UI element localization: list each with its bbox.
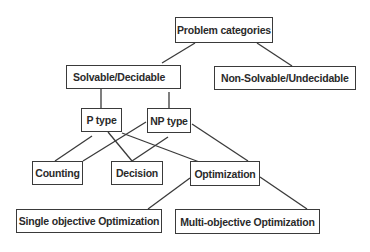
edge-p-optimization (122, 133, 202, 163)
node-counting: Counting (32, 161, 83, 185)
edge-root-solvable (162, 43, 195, 63)
edge-p-decision (108, 132, 132, 161)
node-p-type: P type (81, 108, 122, 132)
edge-np-optimization (192, 124, 248, 161)
node-non-solvable-undecidable: Non-Solvable/Undecidable (214, 66, 356, 90)
node-multi-objective-optimization: Multi-objective Optimization (175, 209, 320, 234)
edge-opt-multi (260, 177, 307, 209)
node-problem-categories: Problem categories (175, 17, 273, 43)
node-optimization: Optimization (190, 161, 260, 186)
node-single-objective-optimization: Single objective Optimization (16, 209, 162, 233)
node-solvable-decidable: Solvable/Decidable (66, 65, 181, 89)
node-decision: Decision (111, 161, 163, 185)
edge-p-counting (55, 136, 92, 161)
edge-np-decision (132, 137, 168, 161)
edge-root-nonsolvable (257, 43, 292, 66)
node-np-type: NP type (147, 108, 191, 133)
